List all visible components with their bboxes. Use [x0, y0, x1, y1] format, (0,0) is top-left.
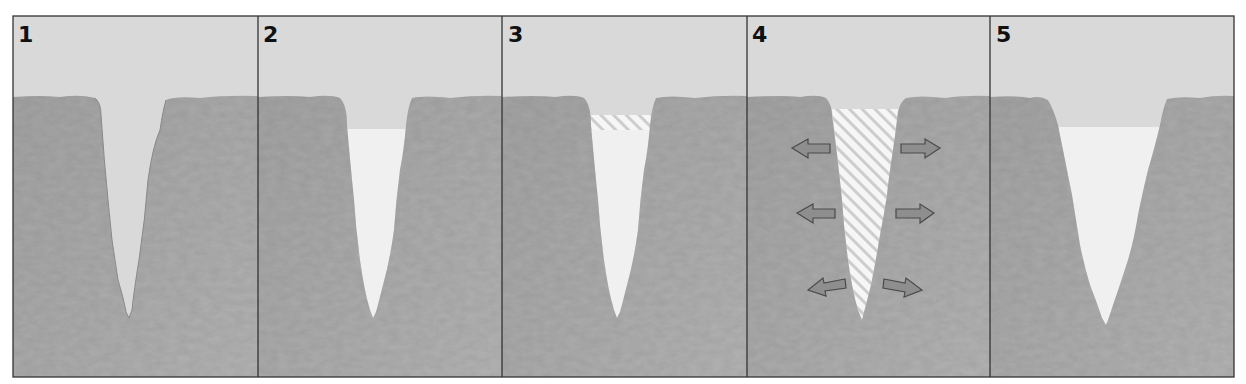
panel-label-4: 4: [752, 22, 767, 47]
panel-2: 2: [258, 16, 502, 377]
panel-1: 1: [13, 16, 258, 377]
panel-3: 3: [502, 16, 747, 377]
panel-label-2: 2: [263, 22, 278, 47]
panel-5: 5: [990, 16, 1234, 377]
frost-wedging-diagram: 1 2 3 4 5: [0, 0, 1246, 384]
panel-label-3: 3: [508, 22, 523, 47]
panel-label-5: 5: [996, 22, 1011, 47]
ice-band: [590, 115, 652, 130]
panel-label-1: 1: [18, 22, 33, 47]
panel-4: 4: [747, 16, 990, 377]
